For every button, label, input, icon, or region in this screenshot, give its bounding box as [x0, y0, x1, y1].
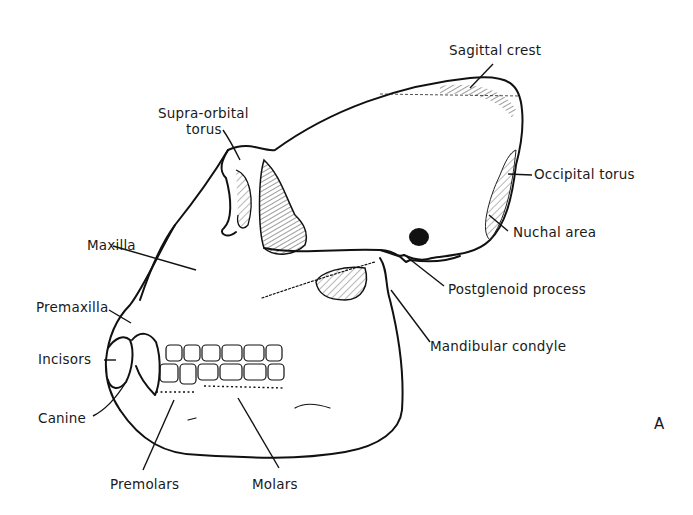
skull-illustration: [0, 0, 693, 515]
label-canine: Canine: [38, 411, 86, 426]
zygomatic-arch: [140, 150, 228, 300]
auditory-meatus: [409, 228, 429, 246]
label-postglenoid-process: Postglenoid process: [448, 282, 586, 297]
label-occipital-torus: Occipital torus: [534, 167, 635, 182]
label-incisors: Incisors: [38, 352, 91, 367]
label-molars: Molars: [252, 477, 298, 492]
canine-tooth: [132, 334, 160, 395]
skull-diagram: Sagittal crest Supra-orbital torus Occip…: [0, 0, 693, 515]
label-supra-orbital-torus-line1: Supra-orbital: [158, 106, 249, 121]
label-supra-orbital-torus-line2: torus: [186, 122, 222, 137]
panel-letter: A: [654, 415, 664, 433]
label-nuchal-area: Nuchal area: [513, 225, 596, 240]
label-mandibular-condyle: Mandibular condyle: [430, 339, 566, 354]
label-sagittal-crest: Sagittal crest: [449, 43, 541, 58]
brow-ridge: [222, 150, 236, 235]
label-maxilla: Maxilla: [87, 238, 136, 253]
label-premolars: Premolars: [110, 477, 179, 492]
label-premaxilla: Premaxilla: [36, 300, 108, 315]
